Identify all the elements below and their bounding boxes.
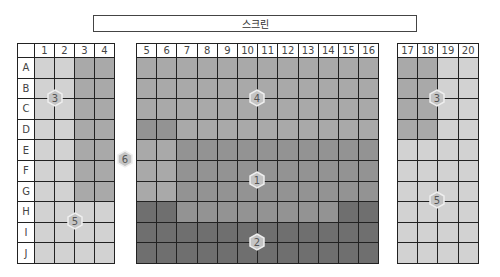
seat-cell[interactable] bbox=[55, 181, 75, 202]
seat-cell[interactable] bbox=[217, 160, 237, 181]
seat-cell[interactable] bbox=[458, 99, 478, 120]
seat-cell[interactable] bbox=[398, 99, 418, 120]
seat-cell[interactable] bbox=[35, 58, 55, 79]
seat-cell[interactable] bbox=[458, 119, 478, 140]
seat-cell[interactable] bbox=[258, 119, 278, 140]
seat-cell[interactable] bbox=[137, 140, 157, 161]
seat-cell[interactable] bbox=[258, 140, 278, 161]
seat-cell[interactable] bbox=[298, 222, 318, 243]
seat-cell[interactable] bbox=[217, 243, 237, 264]
seat-cell[interactable] bbox=[177, 222, 197, 243]
seat-cell[interactable] bbox=[318, 140, 338, 161]
seat-cell[interactable] bbox=[338, 222, 358, 243]
seat-cell[interactable] bbox=[338, 243, 358, 264]
seat-cell[interactable] bbox=[237, 58, 257, 79]
seat-cell[interactable] bbox=[157, 140, 177, 161]
seat-cell[interactable] bbox=[177, 99, 197, 120]
seat-cell[interactable] bbox=[237, 202, 257, 223]
seat-cell[interactable] bbox=[95, 222, 115, 243]
seat-cell[interactable] bbox=[95, 119, 115, 140]
seat-cell[interactable] bbox=[75, 78, 95, 99]
seat-cell[interactable] bbox=[35, 140, 55, 161]
seat-cell[interactable] bbox=[338, 119, 358, 140]
seat-cell[interactable] bbox=[217, 222, 237, 243]
seat-cell[interactable] bbox=[338, 160, 358, 181]
seat-cell[interactable] bbox=[359, 181, 379, 202]
seat-cell[interactable] bbox=[418, 160, 438, 181]
seat-cell[interactable] bbox=[35, 119, 55, 140]
seat-cell[interactable] bbox=[458, 181, 478, 202]
seat-cell[interactable] bbox=[278, 160, 298, 181]
seat-cell[interactable] bbox=[137, 222, 157, 243]
seat-cell[interactable] bbox=[197, 222, 217, 243]
seat-cell[interactable] bbox=[318, 78, 338, 99]
seat-cell[interactable] bbox=[258, 58, 278, 79]
seat-cell[interactable] bbox=[298, 243, 318, 264]
seat-cell[interactable] bbox=[95, 160, 115, 181]
seat-cell[interactable] bbox=[137, 181, 157, 202]
seat-cell[interactable] bbox=[35, 202, 55, 223]
seat-cell[interactable] bbox=[177, 243, 197, 264]
seat-cell[interactable] bbox=[137, 243, 157, 264]
seat-cell[interactable] bbox=[298, 99, 318, 120]
seat-cell[interactable] bbox=[157, 78, 177, 99]
seat-cell[interactable] bbox=[398, 119, 418, 140]
seat-cell[interactable] bbox=[137, 160, 157, 181]
seat-cell[interactable] bbox=[197, 58, 217, 79]
seat-cell[interactable] bbox=[177, 58, 197, 79]
seat-cell[interactable] bbox=[359, 140, 379, 161]
seat-cell[interactable] bbox=[217, 181, 237, 202]
seat-cell[interactable] bbox=[398, 181, 418, 202]
seat-cell[interactable] bbox=[137, 119, 157, 140]
seat-cell[interactable] bbox=[278, 202, 298, 223]
seat-cell[interactable] bbox=[418, 119, 438, 140]
seat-cell[interactable] bbox=[298, 160, 318, 181]
seat-cell[interactable] bbox=[318, 181, 338, 202]
seat-cell[interactable] bbox=[197, 140, 217, 161]
seat-cell[interactable] bbox=[217, 140, 237, 161]
seat-cell[interactable] bbox=[318, 202, 338, 223]
seat-cell[interactable] bbox=[318, 99, 338, 120]
seat-cell[interactable] bbox=[197, 202, 217, 223]
seat-cell[interactable] bbox=[55, 140, 75, 161]
seat-cell[interactable] bbox=[398, 140, 418, 161]
seat-cell[interactable] bbox=[359, 160, 379, 181]
seat-cell[interactable] bbox=[359, 99, 379, 120]
seat-cell[interactable] bbox=[359, 202, 379, 223]
seat-cell[interactable] bbox=[278, 181, 298, 202]
seat-cell[interactable] bbox=[398, 243, 418, 264]
seat-cell[interactable] bbox=[298, 202, 318, 223]
seat-cell[interactable] bbox=[35, 243, 55, 264]
seat-cell[interactable] bbox=[157, 243, 177, 264]
seat-cell[interactable] bbox=[95, 140, 115, 161]
seat-cell[interactable] bbox=[177, 181, 197, 202]
seat-cell[interactable] bbox=[338, 99, 358, 120]
seat-cell[interactable] bbox=[177, 140, 197, 161]
seat-cell[interactable] bbox=[359, 222, 379, 243]
seat-cell[interactable] bbox=[217, 119, 237, 140]
seat-cell[interactable] bbox=[418, 58, 438, 79]
seat-cell[interactable] bbox=[75, 160, 95, 181]
seat-cell[interactable] bbox=[298, 119, 318, 140]
seat-cell[interactable] bbox=[95, 202, 115, 223]
seat-cell[interactable] bbox=[137, 202, 157, 223]
seat-cell[interactable] bbox=[298, 78, 318, 99]
seat-cell[interactable] bbox=[298, 140, 318, 161]
seat-cell[interactable] bbox=[438, 222, 458, 243]
seat-cell[interactable] bbox=[217, 78, 237, 99]
seat-cell[interactable] bbox=[217, 99, 237, 120]
seat-cell[interactable] bbox=[197, 119, 217, 140]
seat-cell[interactable] bbox=[95, 78, 115, 99]
seat-cell[interactable] bbox=[157, 222, 177, 243]
seat-cell[interactable] bbox=[338, 202, 358, 223]
seat-cell[interactable] bbox=[177, 78, 197, 99]
seat-cell[interactable] bbox=[35, 222, 55, 243]
seat-cell[interactable] bbox=[95, 181, 115, 202]
seat-cell[interactable] bbox=[418, 243, 438, 264]
seat-cell[interactable] bbox=[338, 58, 358, 79]
seat-cell[interactable] bbox=[398, 222, 418, 243]
seat-cell[interactable] bbox=[298, 58, 318, 79]
seat-cell[interactable] bbox=[278, 119, 298, 140]
seat-cell[interactable] bbox=[55, 119, 75, 140]
seat-cell[interactable] bbox=[157, 58, 177, 79]
